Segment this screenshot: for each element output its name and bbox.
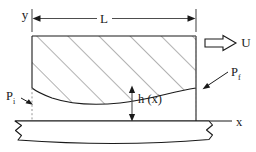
length-arrowhead-left [33,15,41,21]
x-axis-label: x [236,115,243,129]
outlet-pressure-symbol: P [231,65,238,79]
outlet-pressure-subscript: f [238,73,241,82]
film-thickness-arrowhead-bottom [129,114,135,122]
velocity-label: U [241,35,251,50]
velocity-arrow-group [205,36,236,51]
fluid-film-region [30,34,200,121]
inlet-pressure-leader-group [21,98,33,105]
inlet-pressure-label: Pi [6,89,16,106]
outlet-pressure-label: Pf [231,65,241,82]
lubrication-film-diagram: L y U h (x) [0,0,256,152]
outlet-pressure-leader-group [203,72,229,89]
substrate-body [15,121,213,143]
film-thickness-dimension-group [129,86,135,122]
length-label: L [100,11,108,26]
outlet-pressure-leader-line [207,72,228,86]
inlet-pressure-subscript: i [13,97,16,106]
length-dimension-group [32,9,196,32]
substrate-group [15,121,232,143]
figure-container: L y U h (x) [0,0,256,152]
inlet-pressure-symbol: P [6,89,13,103]
film-thickness-label: h (x) [138,92,162,106]
length-arrowhead-right [188,15,196,21]
velocity-arrow-icon [205,36,236,51]
outlet-pressure-arrowhead [203,83,211,89]
y-axis-label: y [22,7,29,22]
